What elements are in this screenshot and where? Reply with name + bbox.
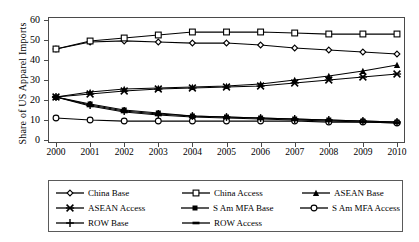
legend-item-s-am-mfa-access[interactable]: S Am MFA Access bbox=[299, 202, 400, 214]
marker-open-diamond bbox=[394, 51, 400, 57]
marker-open-square bbox=[258, 29, 264, 35]
legend-item-china-base[interactable]: China Base bbox=[51, 187, 181, 199]
plot-area bbox=[48, 17, 405, 143]
marker-filled-dash bbox=[291, 119, 298, 122]
legend-marker-open-circle-icon bbox=[299, 202, 329, 214]
series-china-base bbox=[53, 38, 400, 57]
legend-label: ROW Access bbox=[211, 218, 262, 228]
marker-open-circle bbox=[311, 205, 317, 211]
marker-filled-dash bbox=[155, 114, 162, 117]
legend-item-row-access[interactable]: ROW Access bbox=[181, 217, 301, 229]
marker-open-square bbox=[121, 35, 127, 41]
marker-open-diamond bbox=[155, 39, 161, 45]
legend-key-open-circle bbox=[299, 202, 329, 214]
y-tick-label: 30 bbox=[14, 75, 40, 85]
chart-figure: Share of US Apparel Imports 010203040506… bbox=[0, 0, 419, 242]
marker-open-circle bbox=[87, 117, 93, 123]
y-tick-label: 50 bbox=[14, 35, 40, 45]
series-asean-base bbox=[53, 62, 400, 100]
legend-marker-plus-icon bbox=[55, 217, 85, 229]
marker-filled-dash bbox=[53, 96, 60, 99]
marker-open-square bbox=[292, 30, 298, 36]
marker-open-diamond bbox=[258, 42, 264, 48]
legend-item-s-am-mfa-base[interactable]: S Am MFA Base bbox=[180, 202, 299, 214]
marker-filled-dash bbox=[257, 118, 264, 121]
chart-legend: China BaseChina AccessASEAN BaseASEAN Ac… bbox=[48, 180, 403, 232]
legend-marker-filled-square-icon bbox=[180, 202, 210, 214]
legend-key-plus bbox=[55, 217, 85, 229]
legend-label: S Am MFA Base bbox=[210, 203, 274, 213]
legend-key-open-square bbox=[181, 187, 211, 199]
marker-filled-square bbox=[192, 205, 197, 210]
legend-label: ROW Base bbox=[85, 218, 129, 228]
legend-label: ASEAN Access bbox=[85, 203, 145, 213]
legend-item-china-access[interactable]: China Access bbox=[181, 187, 301, 199]
legend-key-open-diamond bbox=[55, 187, 85, 199]
marker-open-diamond bbox=[326, 47, 332, 53]
legend-row: ASEAN AccessS Am MFA BaseS Am MFA Access bbox=[51, 200, 400, 215]
marker-open-diamond bbox=[360, 49, 366, 55]
marker-open-square bbox=[360, 31, 366, 37]
marker-open-square bbox=[87, 38, 93, 44]
legend-item-asean-base[interactable]: ASEAN Base bbox=[301, 187, 384, 199]
legend-marker-filled-dash-icon bbox=[181, 217, 211, 229]
marker-open-square bbox=[394, 31, 400, 37]
marker-open-square bbox=[190, 29, 196, 35]
marker-filled-dash bbox=[223, 117, 230, 120]
legend-label: S Am MFA Access bbox=[329, 203, 400, 213]
marker-open-square bbox=[224, 29, 230, 35]
marker-open-diamond bbox=[190, 40, 196, 46]
marker-filled-dash bbox=[189, 116, 196, 119]
marker-open-square bbox=[193, 190, 199, 196]
x-tick-label: 2010 bbox=[377, 147, 417, 157]
legend-item-row-base[interactable]: ROW Base bbox=[51, 217, 181, 229]
y-tick-label: 20 bbox=[14, 95, 40, 105]
legend-key-cross-x bbox=[55, 202, 85, 214]
marker-open-square bbox=[155, 32, 161, 38]
marker-open-diamond bbox=[67, 190, 73, 196]
marker-open-circle bbox=[155, 118, 161, 124]
legend-marker-filled-triangle-icon bbox=[301, 187, 331, 199]
legend-key-filled-triangle bbox=[301, 187, 331, 199]
marker-filled-dash bbox=[193, 221, 200, 224]
marker-open-circle bbox=[121, 118, 127, 124]
y-tick-label: 40 bbox=[14, 55, 40, 65]
marker-open-circle bbox=[53, 115, 59, 121]
marker-filled-dash bbox=[87, 105, 94, 108]
legend-label: China Base bbox=[85, 188, 129, 198]
legend-key-filled-dash bbox=[181, 217, 211, 229]
legend-row: China BaseChina AccessASEAN Base bbox=[51, 185, 400, 200]
marker-open-square bbox=[53, 46, 59, 52]
marker-filled-dash bbox=[394, 122, 401, 125]
marker-filled-dash bbox=[325, 120, 332, 123]
legend-marker-cross-x-icon bbox=[55, 202, 85, 214]
y-tick-label: 60 bbox=[14, 15, 40, 25]
legend-item-asean-access[interactable]: ASEAN Access bbox=[51, 202, 180, 214]
legend-row: ROW BaseROW Access bbox=[51, 215, 400, 230]
marker-filled-dash bbox=[359, 121, 366, 124]
legend-key-filled-square bbox=[180, 202, 210, 214]
marker-filled-dash bbox=[121, 111, 128, 114]
legend-label: China Access bbox=[211, 188, 263, 198]
marker-open-diamond bbox=[292, 45, 298, 51]
y-tick-label: 0 bbox=[14, 135, 40, 145]
legend-marker-open-square-icon bbox=[181, 187, 211, 199]
marker-open-square bbox=[326, 31, 332, 37]
y-tick-label: 10 bbox=[14, 115, 40, 125]
legend-marker-open-diamond-icon bbox=[55, 187, 85, 199]
legend-label: ASEAN Base bbox=[331, 188, 384, 198]
series-lines bbox=[49, 18, 404, 142]
marker-open-diamond bbox=[224, 40, 230, 46]
